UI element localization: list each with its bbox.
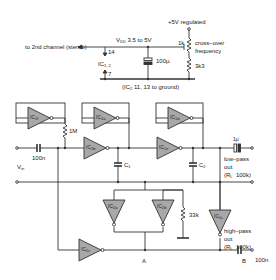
ground-note: (IC2 11, 13 to ground): [122, 84, 179, 91]
crossover-circuit-diagram: +5V regulated VDD 3.5 to 5V to 2nd chann…: [0, 0, 276, 280]
ic12-label: IC1, 2: [98, 61, 111, 68]
node-b-label: B: [242, 258, 246, 264]
node-a-label: A: [142, 258, 146, 264]
c1-label: C1: [124, 162, 131, 169]
vin-label: Vin: [17, 164, 24, 171]
to-second-channel-label: to 2nd channel (stereo): [25, 44, 87, 50]
cap-100n-input-label: 100n: [32, 155, 45, 161]
high-pass-load: (RL 100k): [224, 244, 251, 251]
pin-14-label: 14: [108, 49, 115, 55]
cap-100n-output-label: 100n: [255, 257, 268, 263]
resistor-3k3-label: 3k3: [195, 63, 205, 69]
pot-function-line1: cross–over: [195, 40, 224, 46]
high-pass-label-line1: high–pass: [224, 228, 251, 234]
gate-label-ic1a: IC1a: [96, 115, 105, 121]
gate-label-ic2c: IC2c: [81, 247, 90, 253]
cap-100u-label: 100µ: [156, 58, 169, 64]
pin-7-label: 7: [108, 71, 111, 77]
supply-label: +5V regulated: [168, 19, 206, 25]
low-pass-load: (RL 100k): [224, 172, 251, 179]
low-pass-label-line2: out: [224, 164, 232, 170]
gate-label-ic2b: IC2b: [157, 204, 166, 210]
gate-label-ic1d: IC1d: [170, 115, 179, 121]
gate-label-ic1f: IC1f: [30, 115, 38, 121]
gate-label-ic1b: IC1b: [86, 145, 95, 151]
high-pass-label-line2: out: [224, 236, 232, 242]
vdd-label: VDD 3.5 to 5V: [116, 37, 152, 44]
resistor-1m-label: 1M: [69, 128, 77, 134]
gate-label-ic2a: IC2a: [108, 204, 117, 210]
pot-1k-label: 1k: [178, 40, 184, 46]
cap-1u-output-label: 1µ: [233, 137, 239, 142]
low-pass-label-line1: low–pass: [224, 156, 249, 162]
gate-label-ic1c: IC1c: [214, 214, 223, 220]
c2-label: C2: [199, 162, 206, 169]
gate-label-ic1e: IC1e: [159, 145, 168, 151]
pot-function-line2: frequency: [195, 48, 221, 54]
resistor-33k-label: 33k: [189, 212, 199, 218]
